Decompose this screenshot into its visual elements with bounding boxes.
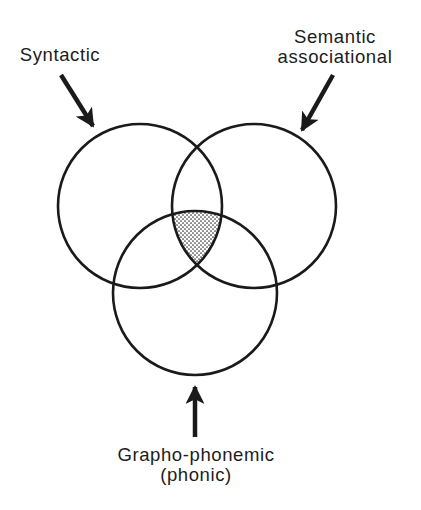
label-syntactic: Syntactic — [14, 45, 106, 65]
venn-diagram — [0, 0, 421, 510]
label-syntactic-text: Syntactic — [14, 45, 106, 65]
label-grapho-line2: (phonic) — [104, 465, 288, 485]
circle-syntactic — [58, 124, 222, 288]
label-semantic-line1: Semantic — [266, 27, 404, 47]
arrow-semantic — [302, 75, 333, 130]
label-grapho-phonemic: Grapho-phonemic (phonic) — [104, 445, 288, 485]
arrow-syntactic — [61, 75, 93, 126]
label-semantic-associational: Semantic associational — [266, 27, 404, 67]
label-semantic-line2: associational — [266, 47, 404, 67]
circle-semantic — [172, 124, 336, 288]
label-grapho-line1: Grapho-phonemic — [104, 445, 288, 465]
